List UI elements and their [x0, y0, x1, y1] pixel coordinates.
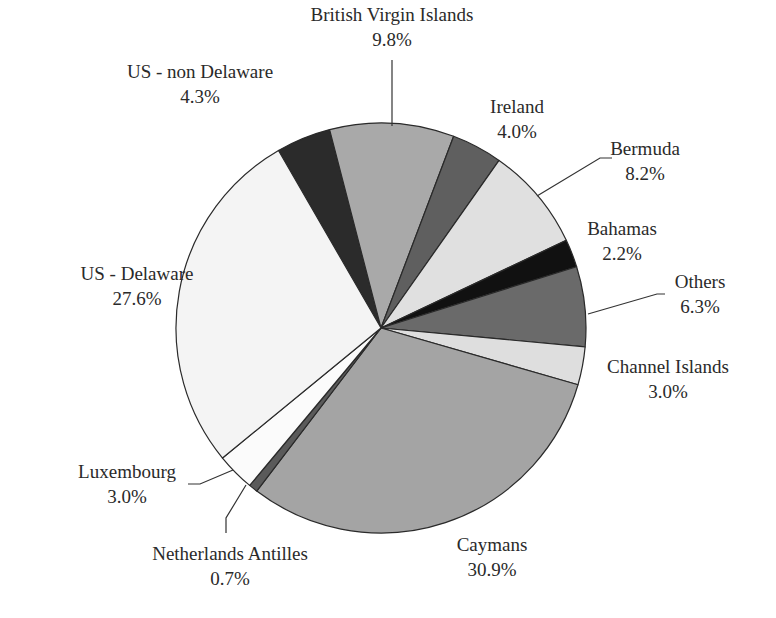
- label-bermuda-pct: 8.2%: [625, 163, 665, 184]
- label-others-pct: 6.3%: [680, 296, 720, 317]
- label-bermuda-name: Bermuda: [610, 138, 680, 159]
- label-ireland-pct: 4.0%: [497, 121, 537, 142]
- leader-line-bermuda: [537, 158, 612, 196]
- label-others-name: Others: [675, 271, 726, 292]
- leader-line-luxembourg: [188, 470, 233, 484]
- label-luxembourg-name: Luxembourg: [78, 461, 176, 482]
- label-caymans-pct: 30.9%: [467, 559, 516, 580]
- label-luxembourg-pct: 3.0%: [107, 486, 147, 507]
- label-us-non-delaware-pct: 4.3%: [180, 86, 220, 107]
- label-us-non-delaware-name: US - non Delaware: [127, 61, 273, 82]
- label-bahamas-pct: 2.2%: [602, 243, 642, 264]
- leader-line-netherlands-antilles: [226, 485, 246, 533]
- label-us-delaware-pct: 27.6%: [112, 288, 161, 309]
- label-ireland-name: Ireland: [490, 96, 544, 117]
- label-channel-islands-name: Channel Islands: [607, 356, 729, 377]
- label-channel-islands-pct: 3.0%: [648, 381, 688, 402]
- label-netherlands-antilles-name: Netherlands Antilles: [152, 543, 308, 564]
- pie-slices: [176, 123, 586, 533]
- label-bvi-pct: 9.8%: [372, 29, 412, 50]
- label-us-delaware-name: US - Delaware: [81, 263, 194, 284]
- label-caymans-name: Caymans: [457, 534, 528, 555]
- pie-chart: British Virgin Islands 9.8% US - non Del…: [0, 0, 776, 618]
- label-bvi-name: British Virgin Islands: [311, 4, 474, 25]
- leader-line-others: [588, 294, 665, 314]
- label-netherlands-antilles-pct: 0.7%: [210, 568, 250, 589]
- label-bahamas-name: Bahamas: [587, 218, 657, 239]
